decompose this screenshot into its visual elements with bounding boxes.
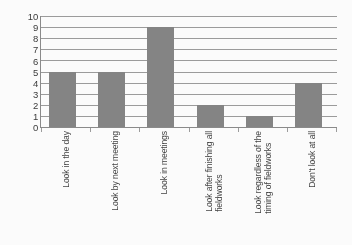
bar xyxy=(147,27,174,127)
x-axis-label-slot: Look by next meeting xyxy=(90,131,139,241)
label-line: Don't look at all xyxy=(307,131,317,188)
label-line: Look in meetings xyxy=(159,131,169,194)
x-axis-label-slot: Look in the day xyxy=(41,131,90,241)
y-tick-label: 9 xyxy=(18,23,38,33)
y-tick-label: 6 xyxy=(18,57,38,67)
x-axis-category-label: Look after finishing all fieldworks xyxy=(203,131,223,212)
y-tick-label: 8 xyxy=(18,34,38,44)
label-line: Look after finishing all xyxy=(203,131,213,212)
y-tick-label: 7 xyxy=(18,45,38,55)
x-axis-category-label: Look by next meeting xyxy=(109,131,119,211)
bar xyxy=(98,72,125,128)
bars-layer xyxy=(41,16,337,127)
y-tick-label: 3 xyxy=(18,90,38,100)
x-axis-category-label: Look in meetings xyxy=(159,131,169,194)
label-line: timing of fieldworks xyxy=(263,131,273,214)
y-tick-label: 10 xyxy=(18,12,38,22)
bar xyxy=(295,83,322,127)
label-line: fieldworks xyxy=(214,131,224,212)
y-tick-label: 1 xyxy=(18,112,38,122)
x-axis-label-slot: Look regardless of the timing of fieldwo… xyxy=(238,131,287,241)
y-tick-label: 2 xyxy=(18,101,38,111)
x-axis-category-label: Look regardless of the timing of fieldwo… xyxy=(252,131,272,214)
label-line: Look in the day xyxy=(60,131,70,188)
bar xyxy=(246,116,273,127)
x-axis-label-slot: Look in meetings xyxy=(139,131,189,241)
x-axis-category-label: Look in the day xyxy=(60,131,70,188)
x-axis-category-labels: Look in the day Look by next meeting Loo… xyxy=(41,131,337,241)
y-tick-label: 0 xyxy=(18,123,38,133)
y-axis-tick-labels: 10 9 8 7 6 5 4 3 2 1 0 xyxy=(18,12,38,128)
bar xyxy=(197,105,224,127)
y-tick-label: 5 xyxy=(18,68,38,78)
x-axis-category-label: Don't look at all xyxy=(307,131,317,188)
x-axis-label-slot: Don't look at all xyxy=(287,131,337,241)
y-tick-label: 4 xyxy=(18,79,38,89)
label-line: Look regardless of the xyxy=(252,131,262,214)
bar xyxy=(49,72,76,128)
x-axis-label-slot: Look after finishing all fieldworks xyxy=(189,131,238,241)
label-line: Look by next meeting xyxy=(109,131,119,211)
bar-chart: 10 9 8 7 6 5 4 3 2 1 0 xyxy=(0,0,352,245)
